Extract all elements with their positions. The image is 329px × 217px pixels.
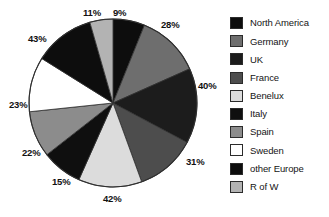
legend-item[interactable]: Germany (230, 32, 329, 50)
legend-swatch-icon (230, 144, 243, 156)
slice-value-label: 11% (83, 8, 101, 18)
legend-item-label: UK (250, 55, 263, 65)
legend-item[interactable]: R of W (230, 178, 329, 196)
pie-svg (28, 18, 198, 188)
slice-value-label: 40% (198, 81, 216, 91)
legend-item[interactable]: Spain (230, 123, 329, 141)
pie-chart-figure: 9%28%40%31%42%15%22%23%43%11% North Amer… (0, 0, 329, 217)
slice-value-label: 15% (52, 177, 70, 187)
legend-swatch-icon (230, 108, 243, 120)
legend-item[interactable]: France (230, 69, 329, 87)
slice-value-label: 22% (22, 148, 40, 158)
legend-swatch-icon (230, 90, 243, 102)
legend-item-label: Sweden (250, 146, 284, 156)
legend-swatch-icon (230, 35, 243, 47)
slice-value-label: 43% (28, 34, 46, 44)
legend-item-label: North America (250, 18, 309, 28)
slice-value-label: 31% (186, 157, 204, 167)
legend-item[interactable]: other Europe (230, 160, 329, 178)
legend-swatch-icon (230, 72, 243, 84)
legend-item[interactable]: Sweden (230, 141, 329, 159)
legend-item-label: R of W (250, 182, 278, 192)
legend-item[interactable]: Benelux (230, 87, 329, 105)
legend-swatch-icon (230, 53, 243, 65)
chart-legend: North AmericaGermanyUKFranceBeneluxItaly… (230, 14, 329, 200)
legend-item-label: Germany (250, 37, 288, 47)
page-artifact-strip (0, 205, 222, 217)
slice-value-label: 9% (113, 8, 126, 18)
slice-value-label: 28% (161, 20, 179, 30)
slice-value-label: 42% (103, 194, 121, 204)
slice-value-label: 23% (9, 100, 27, 110)
legend-swatch-icon (230, 163, 243, 175)
legend-item-label: France (250, 73, 279, 83)
legend-item-label: Benelux (250, 91, 284, 101)
legend-swatch-icon (230, 181, 243, 193)
legend-swatch-icon (230, 126, 243, 138)
legend-item[interactable]: UK (230, 50, 329, 68)
legend-item-label: other Europe (250, 164, 304, 174)
legend-item[interactable]: North America (230, 14, 329, 32)
legend-item-label: Italy (250, 109, 267, 119)
chart-plot-area: 9%28%40%31%42%15%22%23%43%11% (0, 0, 222, 217)
legend-item-label: Spain (250, 127, 274, 137)
legend-swatch-icon (230, 17, 243, 29)
legend-item[interactable]: Italy (230, 105, 329, 123)
